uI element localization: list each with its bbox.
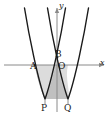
- y-axis-label: y: [59, 2, 64, 10]
- origin-label-O: O: [58, 62, 65, 71]
- point-label-P: P: [41, 104, 47, 113]
- point-label-A: A: [30, 62, 37, 71]
- point-label-B: B: [55, 50, 62, 59]
- figure-canvas: [0, 0, 111, 119]
- geometry-figure: A B O P Q x y: [0, 0, 111, 119]
- point-label-Q: Q: [64, 104, 71, 113]
- x-axis-label: x: [100, 59, 105, 67]
